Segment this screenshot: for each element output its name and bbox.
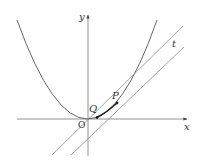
point-p-label: P: [111, 90, 119, 101]
parabola-diagram: y x O Q P t: [0, 0, 198, 168]
tangent-label: t: [172, 38, 177, 49]
point-q: [96, 116, 99, 119]
x-axis-label: x: [184, 121, 190, 132]
arc-q-to-p: [97, 103, 117, 118]
y-axis-label: y: [78, 11, 85, 22]
origin-label: O: [78, 120, 85, 130]
point-p: [116, 102, 119, 105]
parabola-curve: [17, 20, 157, 119]
point-q-label: Q: [89, 103, 97, 114]
